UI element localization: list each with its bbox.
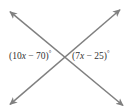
left-label-constant: 70 (36, 51, 46, 61)
left-label-coefficient: 10 (12, 51, 22, 61)
right-label-degree-symbol: ° (107, 49, 110, 56)
right-label-constant: 25 (94, 51, 104, 61)
left-label-degree-symbol: ° (49, 49, 52, 56)
left-label-variable: x (22, 51, 26, 61)
left-angle-label: (10x − 70)° (9, 52, 51, 62)
angle-diagram-figure: (10x − 70)° (7x − 25)° (0, 0, 129, 112)
right-label-operator: − (87, 51, 92, 61)
right-angle-label: (7x − 25)° (72, 52, 110, 62)
right-label-variable: x (80, 51, 84, 61)
left-label-operator: − (28, 51, 33, 61)
